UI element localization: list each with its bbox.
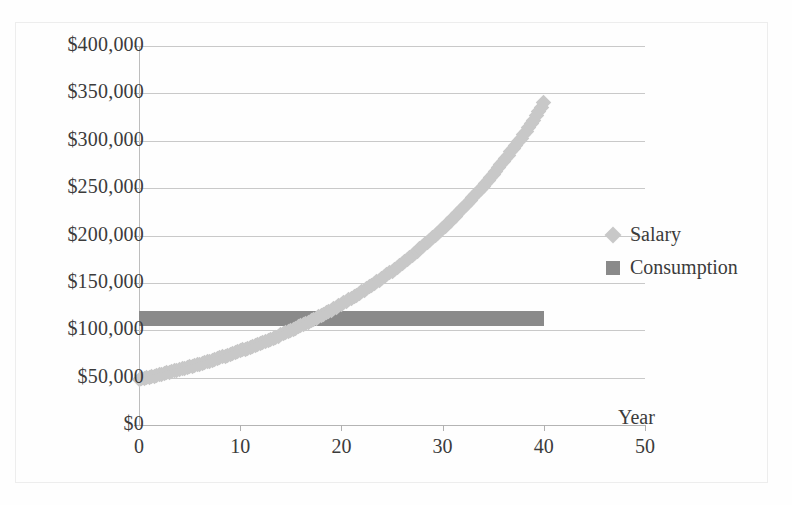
diamond-marker-icon xyxy=(605,226,622,243)
y-axis-tick-label: $350,000 xyxy=(0,80,144,103)
y-axis-tick-label: $250,000 xyxy=(0,175,144,198)
y-axis-tick-label: $300,000 xyxy=(0,128,144,151)
x-axis-tick xyxy=(240,425,241,431)
x-axis-title: Year xyxy=(618,406,655,429)
series-consumption-band xyxy=(139,311,544,325)
x-axis-tick-label: 30 xyxy=(413,435,473,458)
data-series-layer xyxy=(139,46,645,425)
x-axis-tick-label: 10 xyxy=(210,435,270,458)
legend-label-salary: Salary xyxy=(630,223,681,246)
x-axis-tick-label: 50 xyxy=(615,435,675,458)
y-axis-tick-label: $0 xyxy=(0,412,144,435)
x-axis-tick-label: 0 xyxy=(109,435,169,458)
gridline xyxy=(139,425,645,426)
square-marker-icon xyxy=(606,261,620,275)
legend-item-salary[interactable]: Salary xyxy=(604,218,774,251)
x-axis-tick xyxy=(341,425,342,431)
x-axis-tick-label: 20 xyxy=(311,435,371,458)
y-axis-tick-label: $50,000 xyxy=(0,365,144,388)
y-axis-tick-label: $200,000 xyxy=(0,223,144,246)
x-axis-tick xyxy=(544,425,545,431)
x-axis-tick-label: 40 xyxy=(514,435,574,458)
y-axis-tick-label: $150,000 xyxy=(0,270,144,293)
legend-item-consumption[interactable]: Consumption xyxy=(604,251,774,284)
chart-legend: Salary Consumption xyxy=(604,218,774,284)
y-axis-tick-label: $100,000 xyxy=(0,317,144,340)
chart-page: $0$50,000$100,000$150,000$200,000$250,00… xyxy=(0,0,792,505)
legend-label-consumption: Consumption xyxy=(630,256,738,279)
plot-area xyxy=(139,46,645,425)
y-axis-tick-label: $400,000 xyxy=(0,33,144,56)
x-axis-tick xyxy=(443,425,444,431)
